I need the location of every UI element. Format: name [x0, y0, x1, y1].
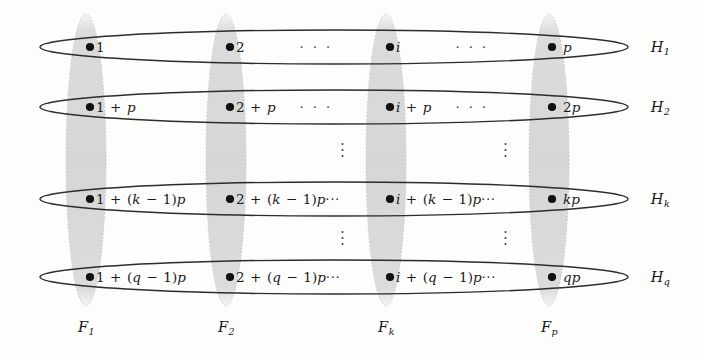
vertex-label: 1 + p	[96, 99, 136, 115]
vertex-label: 2 + p	[236, 99, 276, 115]
vertex-dot	[226, 273, 234, 281]
vertex-label: p	[563, 39, 572, 55]
vertical-ellipsis	[341, 143, 344, 157]
vertex-label: 2p	[563, 99, 580, 115]
vertex-dot	[86, 195, 94, 203]
row-set-label-H2-label: H2	[651, 99, 670, 115]
vertex-label: 1 + (k − 1)p	[96, 191, 186, 207]
set-partition-diagram: 12ip1 + p2 + pi + p2p1 + (k − 1)p2 + (k …	[0, 0, 703, 360]
vertex-dot	[226, 43, 234, 51]
vertex-label: i + (k − 1)p···	[396, 191, 496, 207]
column-set-label-F1: F1	[78, 319, 94, 335]
vertex-label: 2 + (q − 1)p···	[236, 269, 341, 285]
vertex-label: 2	[236, 39, 245, 55]
vertex-label: qp	[563, 269, 580, 285]
vertex-dot	[386, 273, 394, 281]
vertex-dot	[86, 103, 94, 111]
column-set-label-Fp: Fp	[541, 319, 557, 335]
vertex-dot	[548, 103, 556, 111]
diagram-canvas	[0, 0, 703, 360]
vertex-label: 1	[96, 39, 105, 55]
horizontal-ellipsis: · · ·	[455, 100, 488, 115]
vertex-dot	[386, 43, 394, 51]
vertex-label: i + (q − 1)p···	[396, 269, 496, 285]
vertex-dot	[548, 273, 556, 281]
vertex-label: kp	[563, 191, 580, 207]
vertex-label: 1 + (q − 1)p	[96, 269, 186, 285]
vertex-dot	[86, 43, 94, 51]
row-set-label-H1-label: H1	[651, 39, 670, 55]
vertical-ellipsis	[341, 231, 344, 245]
column-set-label-Fk: Fk	[378, 319, 394, 335]
vertex-label: i + p	[396, 99, 431, 115]
horizontal-ellipsis: · · ·	[455, 40, 488, 55]
vertical-ellipsis	[504, 231, 507, 245]
vertex-dot	[548, 195, 556, 203]
vertex-dot	[226, 195, 234, 203]
column-ellipse-F2	[206, 14, 246, 306]
vertical-ellipsis	[504, 143, 507, 157]
column-set-label-F2: F2	[218, 319, 234, 335]
vertex-dot	[548, 43, 556, 51]
vertex-label: i	[396, 39, 400, 55]
vertex-dot	[86, 273, 94, 281]
row-set-label-Hq-label: Hq	[651, 269, 670, 285]
vertex-dot	[386, 195, 394, 203]
horizontal-ellipsis: · · ·	[299, 40, 332, 55]
vertex-dot	[226, 103, 234, 111]
vertex-dot	[386, 103, 394, 111]
row-set-label-Hk-label: Hk	[651, 191, 669, 207]
vertex-label: 2 + (k − 1)p···	[236, 191, 340, 207]
vertex-dot-group	[86, 43, 556, 281]
horizontal-ellipsis: · · ·	[299, 100, 332, 115]
column-ellipse-Fk	[366, 14, 406, 306]
